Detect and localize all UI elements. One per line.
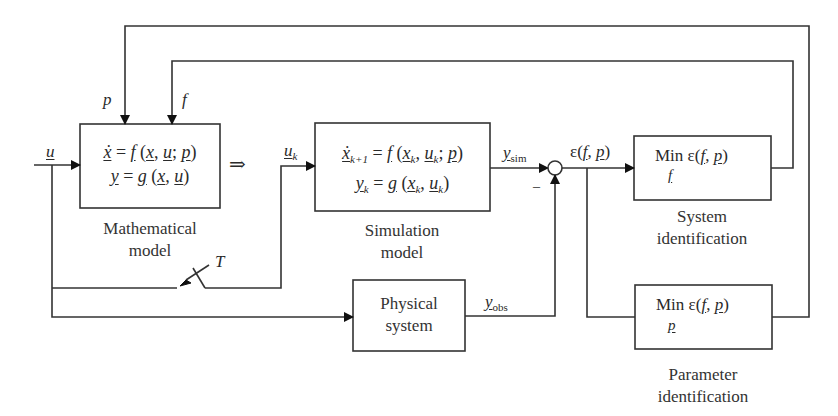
- param-f-label: f: [182, 91, 187, 108]
- summing-junction: [548, 161, 562, 175]
- sysid-caption: System identification: [622, 206, 782, 250]
- math-model-caption: Mathematical model: [70, 218, 230, 262]
- sysid-min-under: f: [668, 168, 672, 183]
- implies-arrow: ⇒: [229, 154, 246, 174]
- paramid-min-under: p: [668, 318, 676, 333]
- sysid-min-text: Min ε(f, p): [655, 147, 728, 164]
- y-sim-label: ysim: [503, 144, 526, 164]
- physical-system-label: Physical system: [353, 293, 465, 337]
- uk-label: uk: [284, 142, 297, 162]
- sim-model-equations: ẋk+1 = f (xk, uk; p) yk = g (xk, uk): [315, 141, 490, 201]
- y-obs-label: yobs: [485, 293, 508, 313]
- input-u-label: u: [46, 143, 55, 160]
- paramid-caption: Parameter identification: [623, 364, 783, 408]
- param-p-label: p: [103, 91, 112, 108]
- paramid-min-text: Min ε(f, p): [656, 296, 729, 313]
- math-model-equations: ẋ = f (x, u; p) y = g (x, u): [80, 140, 220, 188]
- sim-model-caption: Simulation model: [322, 220, 482, 264]
- minus-sign: –: [533, 180, 540, 194]
- error-label: ε(f, p): [570, 143, 610, 160]
